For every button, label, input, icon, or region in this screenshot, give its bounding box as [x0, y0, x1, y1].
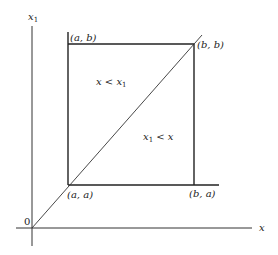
corner-label-a-a: (a, a)	[67, 189, 93, 200]
corner-label-b-b: (b, b)	[197, 39, 224, 50]
corner-label-a-b: (a, b)	[70, 32, 97, 43]
diagonal-line	[32, 35, 202, 228]
origin-label: 0	[24, 216, 30, 227]
region-diagram: x1 x 0 (a, b) (b, b) (a, a) (b, a) x < x…	[0, 0, 278, 255]
y-axis-label: x1	[28, 11, 38, 24]
region-label-lower: x1 < x	[143, 131, 174, 144]
region-label-upper: x < x1	[96, 76, 127, 89]
x-axis-label: x	[259, 222, 265, 233]
corner-label-b-a: (b, a)	[189, 188, 216, 199]
